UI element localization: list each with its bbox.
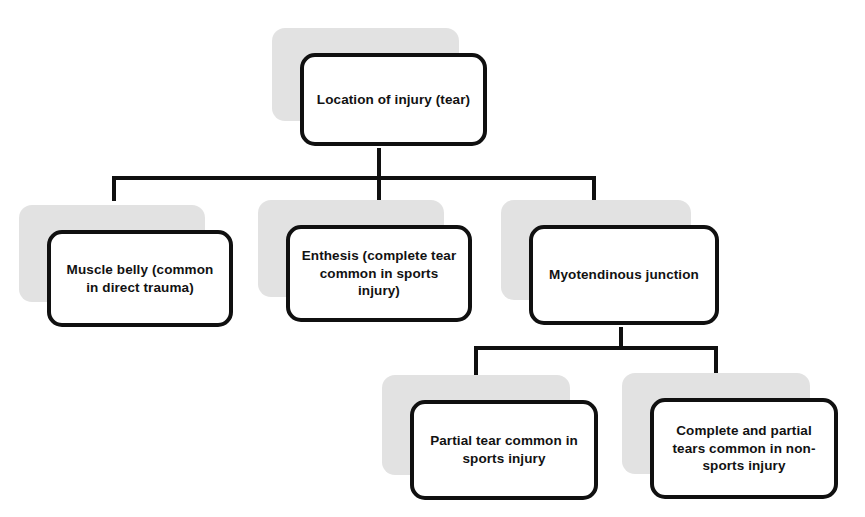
node-box[interactable]: Location of injury (tear) bbox=[300, 53, 487, 146]
node-myotendinous-junction[interactable]: Myotendinous junction bbox=[501, 200, 691, 300]
node-label: Myotendinous junction bbox=[549, 266, 699, 284]
flowchart-diagram: Location of injury (tear) Muscle belly (… bbox=[0, 0, 865, 517]
node-complete-partial-tears[interactable]: Complete and partial tears common in non… bbox=[622, 373, 810, 474]
node-box[interactable]: Complete and partial tears common in non… bbox=[650, 398, 838, 499]
node-label: Complete and partial tears common in non… bbox=[664, 422, 824, 475]
node-label: Location of injury (tear) bbox=[317, 91, 470, 109]
node-box[interactable]: Enthesis (complete tear common in sports… bbox=[286, 225, 472, 322]
node-box[interactable]: Myotendinous junction bbox=[529, 225, 719, 325]
node-label: Partial tear common in sports injury bbox=[424, 432, 584, 468]
node-root[interactable]: Location of injury (tear) bbox=[272, 28, 459, 121]
node-muscle-belly[interactable]: Muscle belly (common in direct trauma) bbox=[19, 205, 205, 302]
node-label: Muscle belly (common in direct trauma) bbox=[61, 261, 219, 297]
node-label: Enthesis (complete tear common in sports… bbox=[300, 247, 458, 300]
page-caption-fragment bbox=[0, 503, 865, 517]
node-box[interactable]: Muscle belly (common in direct trauma) bbox=[47, 230, 233, 327]
node-box[interactable]: Partial tear common in sports injury bbox=[410, 400, 598, 500]
node-partial-tear[interactable]: Partial tear common in sports injury bbox=[382, 375, 570, 475]
node-enthesis[interactable]: Enthesis (complete tear common in sports… bbox=[258, 200, 444, 297]
